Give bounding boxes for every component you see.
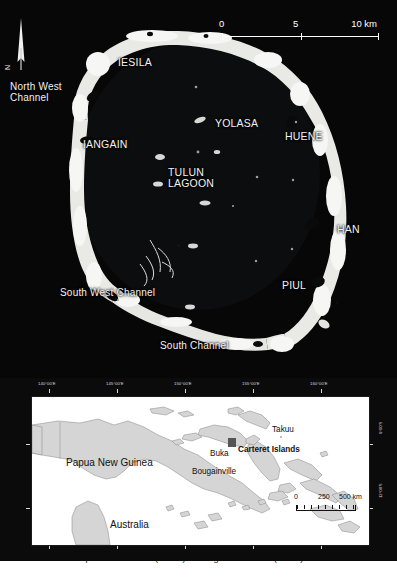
lon-tick-mark-140 bbox=[49, 389, 50, 393]
scale-tick-mid: 5 bbox=[293, 18, 298, 29]
figure-caption-strip: Carteret Islands: Papua New Guinea (abov… bbox=[0, 561, 397, 582]
map-label-south-west-channel: South West Channel bbox=[60, 288, 155, 299]
inset-scale-tick-mid: 250 bbox=[318, 493, 330, 500]
figure-caption: Carteret Islands: Papua New Guinea (abov… bbox=[6, 561, 303, 563]
inset-label-takuu: Takuu bbox=[272, 425, 294, 434]
inset-label-buka: Buka bbox=[210, 449, 229, 458]
lon-tick-label-155: 155°00'E bbox=[242, 381, 260, 386]
lon-tick-mark-160 bbox=[321, 389, 322, 393]
map-label-north-west-channel: North West Channel bbox=[10, 82, 62, 104]
scale-bar-graphic bbox=[222, 33, 379, 40]
inset-scale-bar-graphic bbox=[296, 505, 356, 511]
lon-tick-label-140: 140°00'E bbox=[38, 381, 56, 386]
map-label-yolasa: YOLASA bbox=[215, 118, 258, 129]
inset-label-papua-new-guinea: Papua New Guinea bbox=[66, 457, 153, 468]
lon-tick-label-160: 160°00'E bbox=[310, 381, 328, 386]
lon-tick-label-145: 145°00'E bbox=[106, 381, 124, 386]
north-arrow-label: N bbox=[4, 65, 11, 70]
map-label-piul: PIUL bbox=[282, 280, 306, 291]
map-label-iesila: IESILA bbox=[118, 57, 152, 68]
lon-tick-mark-155 bbox=[253, 389, 254, 393]
lon-tick-mark-150 bbox=[185, 389, 186, 393]
scale-tick-max: 10 km bbox=[351, 18, 377, 29]
map-label-iangain: IANGAIN bbox=[83, 139, 128, 150]
inset-map-frame: Papua New Guinea Buka Bougainville Takuu… bbox=[31, 396, 370, 546]
main-satellite-map: N 0 5 10 km IESILA North West Channel IA… bbox=[0, 0, 397, 378]
lon-tick-label-150: 150°00'E bbox=[174, 381, 192, 386]
scale-tick-0: 0 bbox=[219, 18, 224, 29]
lat-tick-mark-left-12S bbox=[26, 508, 30, 509]
map-label-han: HAN bbox=[337, 224, 360, 235]
figure-root: N 0 5 10 km IESILA North West Channel IA… bbox=[0, 0, 397, 582]
inset-scale-tick-0: 0 bbox=[294, 493, 298, 500]
lat-tick-mark-left-6S bbox=[26, 444, 30, 445]
north-arrow-icon: N bbox=[12, 18, 34, 70]
inset-scale-tick-max: 500 km bbox=[339, 493, 362, 500]
lat-tick-label-6S: 6°00'S bbox=[378, 422, 383, 434]
map-label-south-channel: South Channel bbox=[160, 341, 229, 352]
inset-scale-bar: 0 250 500 km bbox=[294, 493, 360, 515]
inset-label-australia: Australia bbox=[110, 519, 149, 530]
lon-tick-mark-145 bbox=[117, 389, 118, 393]
inset-label-bougainville: Bougainville bbox=[192, 467, 236, 476]
main-scale-bar: 0 5 10 km bbox=[222, 18, 377, 44]
inset-label-carteret-islands: Carteret Islands bbox=[238, 445, 300, 454]
carteret-islands-marker bbox=[228, 438, 236, 447]
inset-location-map: 140°00'E 145°00'E 150°00'E 155°00'E 160°… bbox=[0, 378, 397, 561]
map-label-huene: HUENE bbox=[285, 131, 323, 142]
lat-tick-label-12S: 12°00'S bbox=[378, 483, 383, 498]
map-label-tulun-lagoon: TULUN LAGOON bbox=[168, 167, 214, 190]
